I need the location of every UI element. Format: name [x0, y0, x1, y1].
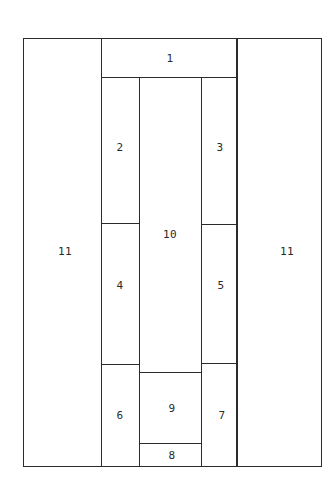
label-8: 8 — [168, 449, 175, 462]
label-11-right: 11 — [280, 245, 294, 258]
label-10: 10 — [163, 228, 177, 241]
layout-diagram: 1 2 3 10 11 11 4 5 6 9 7 8 — [0, 0, 334, 482]
region-10 — [139, 77, 202, 373]
label-7: 7 — [218, 409, 225, 422]
region-5 — [201, 224, 238, 364]
label-2: 2 — [116, 141, 123, 154]
label-5: 5 — [217, 279, 224, 292]
label-11-left: 11 — [58, 245, 72, 258]
label-1: 1 — [166, 52, 173, 65]
label-4: 4 — [116, 279, 123, 292]
region-4 — [101, 223, 140, 365]
label-6: 6 — [116, 409, 123, 422]
label-3: 3 — [216, 141, 223, 154]
label-9: 9 — [168, 402, 175, 415]
